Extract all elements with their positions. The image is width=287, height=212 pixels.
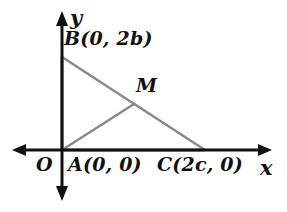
point-m-marker (132, 102, 135, 105)
segment-am-median (62, 104, 134, 150)
x-axis-label: x (260, 157, 273, 178)
y-axis-up-arrowhead (56, 11, 68, 26)
coordinate-geometry-figure: y x B(0, 2b) M O A(0, 0) C(2c, 0) (0, 0, 287, 212)
point-a-label: A(0, 0) (68, 155, 142, 174)
y-axis-label: y (70, 7, 82, 28)
point-c-label: C(2c, 0) (157, 155, 243, 174)
point-b-label: B(0, 2b) (64, 29, 153, 48)
point-m-label: M (136, 76, 157, 95)
y-axis-down-arrowhead (56, 186, 68, 201)
origin-label: O (36, 155, 53, 174)
x-axis-left-arrowhead (12, 144, 26, 156)
